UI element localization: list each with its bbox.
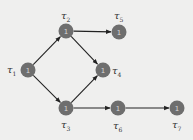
edge-t2-t5 — [73, 31, 111, 32]
node-t6: 1τ6 — [111, 101, 126, 133]
node-t5: 1τ5 — [112, 10, 127, 40]
node-t1: 1τ1 — [7, 63, 36, 78]
node-label: τ1 — [7, 64, 16, 77]
node-label: τ2 — [61, 10, 71, 23]
task-graph: 1τ11τ21τ31τ41τ51τ61τ7 — [0, 0, 193, 140]
node-value: 1 — [101, 67, 105, 75]
edge-t1-t3 — [33, 75, 60, 102]
node-value: 1 — [64, 28, 68, 36]
edge-t1-t2 — [33, 37, 60, 65]
node-value: 1 — [117, 29, 121, 37]
node-value: 1 — [175, 105, 179, 113]
node-label: τ4 — [112, 65, 122, 78]
edge-t3-t4 — [71, 76, 97, 103]
node-t4: 1τ4 — [96, 63, 122, 78]
node-t7: 1τ7 — [170, 101, 185, 132]
node-value: 1 — [64, 105, 68, 113]
node-t3: 1τ3 — [59, 101, 74, 132]
node-value: 1 — [26, 67, 30, 75]
node-t2: 1τ2 — [59, 10, 74, 39]
node-value: 1 — [116, 105, 120, 113]
edge-t2-t4 — [71, 36, 97, 64]
node-label: τ6 — [113, 120, 123, 133]
node-label: τ3 — [61, 119, 71, 132]
node-label: τ7 — [172, 119, 182, 132]
node-label: τ5 — [114, 10, 124, 23]
